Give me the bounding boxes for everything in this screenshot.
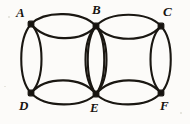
arc-D-E-inner: [31, 80, 96, 94]
arc-C-F-inner: [151, 26, 162, 93]
vertex-label-E: E: [90, 101, 99, 114]
vertex-label-C: C: [163, 5, 172, 18]
vertex-label-F: F: [160, 99, 169, 112]
arc-E-F-inner: [96, 80, 161, 94]
vertex-dot-E: [93, 91, 99, 97]
arc-A-B-inner: [31, 24, 96, 38]
vertex-dot-C: [158, 23, 164, 29]
arc-B-C-inner: [96, 26, 161, 39]
figure-canvas: A B C D E F: [0, 0, 190, 124]
vertex-dot-B: [93, 23, 99, 29]
arc-A-D-inner: [31, 24, 42, 93]
vertex-dot-F: [158, 90, 164, 96]
vertex-dot-A: [28, 21, 34, 27]
vertex-label-A: A: [16, 6, 25, 19]
vertex-label-D: D: [19, 99, 28, 112]
vertex-dot-D: [28, 90, 34, 96]
vertex-label-B: B: [92, 3, 101, 16]
